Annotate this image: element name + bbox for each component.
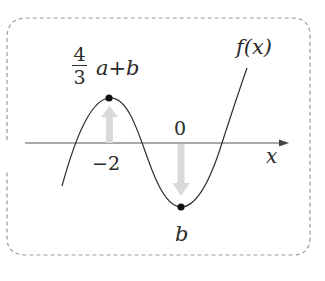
up-arrow-icon <box>101 106 118 143</box>
x-axis-label: x <box>266 146 277 166</box>
function-label: f(x) <box>236 37 272 58</box>
local-max-value-label: a+b <box>96 58 140 79</box>
local-max-point <box>105 94 112 101</box>
local-max-fraction: 4 3 <box>72 44 87 87</box>
x-axis-arrowhead <box>279 140 289 147</box>
down-arrow-icon <box>173 144 190 196</box>
graph-canvas <box>0 0 325 281</box>
local-min-value-label: b <box>175 224 188 245</box>
fraction-numerator: 4 <box>73 44 85 64</box>
local-min-point <box>177 203 184 210</box>
fraction-denominator: 3 <box>73 67 85 87</box>
x-minus-two-label: −2 <box>92 154 120 173</box>
function-curve <box>62 68 247 207</box>
origin-label: 0 <box>174 119 186 138</box>
